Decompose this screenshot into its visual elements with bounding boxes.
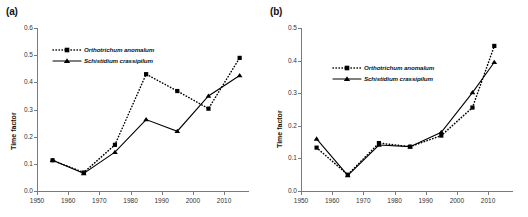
x-tick-label: 1970 (349, 197, 377, 204)
x-tick (37, 192, 38, 195)
x-tick (224, 192, 225, 195)
panel-b: (b) Time factor 0.00.10.20.30.40.5195019… (264, 0, 528, 217)
x-tick-label: 1990 (412, 197, 440, 204)
x-tick (488, 192, 489, 195)
series-orthotrichum-anomalum (50, 56, 241, 175)
y-tick-label: 0.2 (13, 133, 33, 140)
x-tick-label: 1960 (318, 197, 346, 204)
x-tick (68, 192, 69, 195)
x-tick-label: 1980 (381, 197, 409, 204)
x-tick-label: 1960 (54, 197, 82, 204)
x-tick-label: 2000 (179, 197, 207, 204)
panel-b-plot-area: 0.00.10.20.30.40.51950196019701980199020… (301, 28, 513, 191)
x-tick (193, 192, 194, 195)
legend-label: Schistidium crassipilum (84, 57, 153, 64)
legend-label: Orthotrichum anomalum (364, 64, 434, 71)
figure-two-panel-line-charts: (a) Time factor 0.00.10.20.30.40.50.6195… (0, 0, 528, 217)
x-tick-label: 1970 (85, 197, 113, 204)
legend-square-marker-icon (52, 44, 82, 55)
x-tick (162, 192, 163, 195)
x-tick-label: 1980 (117, 197, 145, 204)
panel-a: (a) Time factor 0.00.10.20.30.40.50.6195… (0, 0, 264, 217)
y-tick-label: 0.6 (13, 24, 33, 31)
x-tick-label: 1990 (148, 197, 176, 204)
legend-triangle-marker-icon (332, 73, 362, 84)
y-tick-label: 0.0 (13, 187, 33, 194)
y-tick-label: 0.5 (13, 51, 33, 58)
series-layer (301, 28, 513, 191)
y-tick-label: 0.3 (13, 106, 33, 113)
legend-triangle-marker-icon (52, 55, 82, 66)
y-tick-label: 0.0 (277, 187, 297, 194)
x-tick (457, 192, 458, 195)
series-schistidium-crassipilum (50, 73, 243, 175)
y-tick-label: 0.4 (277, 57, 297, 64)
x-tick (332, 192, 333, 195)
x-tick-label: 2000 (443, 197, 471, 204)
panel-a-label: (a) (6, 6, 18, 17)
y-tick-label: 0.5 (277, 24, 297, 31)
panel-b-y-axis-title: Time factor (276, 110, 283, 148)
legend-label: Orthotrichum anomalum (84, 46, 154, 53)
x-tick (395, 192, 396, 195)
x-tick (99, 192, 100, 195)
y-tick-label: 0.2 (277, 122, 297, 129)
y-tick-label: 0.1 (277, 154, 297, 161)
x-tick-label: 2010 (474, 197, 502, 204)
x-tick-label: 2010 (210, 197, 238, 204)
y-tick-label: 0.1 (13, 160, 33, 167)
x-tick-label: 1950 (287, 197, 315, 204)
x-tick (426, 192, 427, 195)
panel-b-label: (b) (270, 6, 282, 17)
panel-a-y-axis-title: Time factor (10, 112, 17, 150)
legend-label: Schistidium crassipilum (364, 75, 433, 82)
legend-square-marker-icon (332, 62, 362, 73)
x-tick (131, 192, 132, 195)
x-tick (363, 192, 364, 195)
y-tick-label: 0.4 (13, 78, 33, 85)
x-tick-label: 1950 (23, 197, 51, 204)
y-tick-label: 0.3 (277, 89, 297, 96)
x-tick (301, 192, 302, 195)
